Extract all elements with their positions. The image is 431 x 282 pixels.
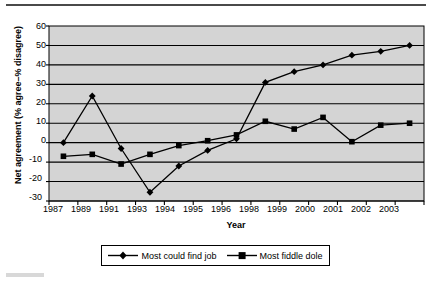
data-point-marker	[147, 152, 153, 158]
chart-figure: Net agreement (% agree–% disagree) Year …	[0, 0, 431, 282]
legend-diamond-marker-icon	[108, 250, 138, 261]
x-tick-marks	[49, 201, 424, 205]
data-point-marker	[320, 115, 326, 121]
legend-label: Most could find job	[141, 251, 216, 261]
legend-entry-most-could-find-job: Most could find job	[108, 250, 216, 261]
plot-background	[49, 26, 424, 201]
data-point-marker	[61, 153, 67, 159]
line-chart: Net agreement (% agree–% disagree) Year …	[0, 8, 431, 240]
data-point-marker	[89, 152, 95, 158]
legend-entry-most-fiddle-dole: Most fiddle dole	[227, 250, 323, 261]
data-point-marker	[234, 132, 240, 138]
data-point-marker	[291, 126, 297, 132]
top-divider-rule	[6, 4, 426, 6]
data-point-marker	[263, 118, 269, 124]
legend-square-marker-icon	[227, 250, 257, 261]
data-point-marker	[378, 122, 384, 128]
data-point-marker	[349, 139, 355, 145]
bottom-scan-artifact	[6, 273, 44, 277]
data-point-marker	[176, 143, 182, 149]
data-point-marker	[118, 161, 124, 167]
data-point-marker	[407, 120, 413, 126]
plot-canvas	[0, 8, 431, 240]
data-point-marker	[205, 138, 211, 144]
chart-legend: Most could find job Most fiddle dole	[101, 245, 330, 266]
legend-label: Most fiddle dole	[260, 251, 323, 261]
